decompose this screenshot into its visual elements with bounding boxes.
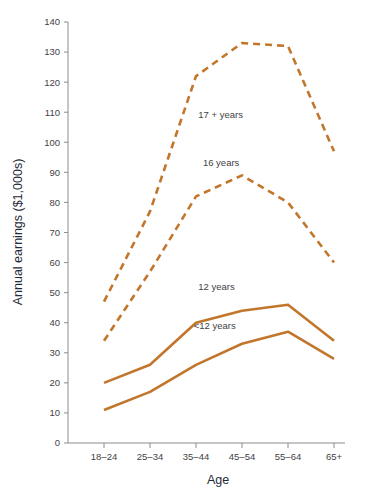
y-tick-label: 70 (49, 227, 60, 238)
x-tick-label: 18–24 (91, 451, 117, 462)
series-label: 17 + years (198, 109, 243, 120)
y-axis-title: Annual earnings ($1,000s) (11, 159, 25, 306)
y-tick-label: 20 (49, 377, 60, 388)
series-annotations: 17 + years16 years12 years<12 years (194, 109, 243, 331)
y-tick-label: 0 (55, 437, 60, 448)
series-label: 16 years (203, 157, 240, 168)
x-tick-label: 25–34 (137, 451, 163, 462)
x-axis: 18–2425–3435–4445–5455–6465+ (68, 443, 345, 462)
x-tick-label: 55–64 (275, 451, 301, 462)
y-tick-label: 100 (44, 137, 60, 148)
x-tick-label: 65+ (326, 451, 343, 462)
series-line (104, 305, 334, 383)
x-tick-label: 45–54 (229, 451, 255, 462)
series-line (104, 43, 334, 302)
y-tick-label: 80 (49, 197, 60, 208)
y-tick-label: 10 (49, 407, 60, 418)
y-tick-label: 50 (49, 287, 60, 298)
y-tick-label: 40 (49, 317, 60, 328)
series-label: 12 years (198, 281, 235, 292)
y-axis: 0102030405060708090100110120130140 (44, 16, 68, 448)
earnings-by-age-line-chart: 0102030405060708090100110120130140 18–24… (0, 0, 370, 492)
y-tick-label: 30 (49, 347, 60, 358)
data-series-group (104, 43, 334, 410)
chart-container: 0102030405060708090100110120130140 18–24… (0, 0, 370, 492)
y-tick-label: 130 (44, 46, 60, 57)
y-tick-label: 90 (49, 167, 60, 178)
x-tick-label: 35–44 (183, 451, 209, 462)
y-tick-label: 60 (49, 257, 60, 268)
x-axis-title: Age (207, 473, 229, 487)
series-label: <12 years (194, 320, 236, 331)
y-tick-label: 110 (45, 107, 60, 118)
y-tick-label: 120 (44, 77, 60, 88)
y-tick-label: 140 (44, 16, 60, 27)
series-line (104, 332, 334, 410)
